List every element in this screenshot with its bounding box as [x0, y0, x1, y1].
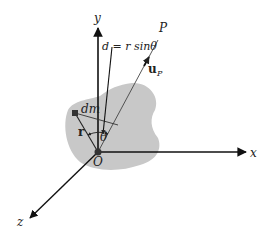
point-p-label: P [158, 21, 168, 35]
x-axis-label: x [250, 146, 257, 160]
angle-theta-label: θ [100, 130, 108, 144]
z-axis-label: z [16, 215, 24, 229]
mass-element-label: dm [81, 102, 100, 116]
origin-label: O [93, 155, 103, 169]
moment-of-inertia-diagram: y x z O P d = r sinθ u P dm r θ [0, 0, 272, 241]
z-axis [30, 152, 98, 218]
mass-element-dm [72, 110, 78, 116]
unit-vector-subscript: P [156, 69, 163, 78]
distance-equation-label: d = r sinθ [102, 40, 157, 53]
position-vector-label: r [78, 125, 85, 139]
y-axis-label: y [93, 11, 101, 25]
unit-vector-label: u [148, 62, 157, 76]
